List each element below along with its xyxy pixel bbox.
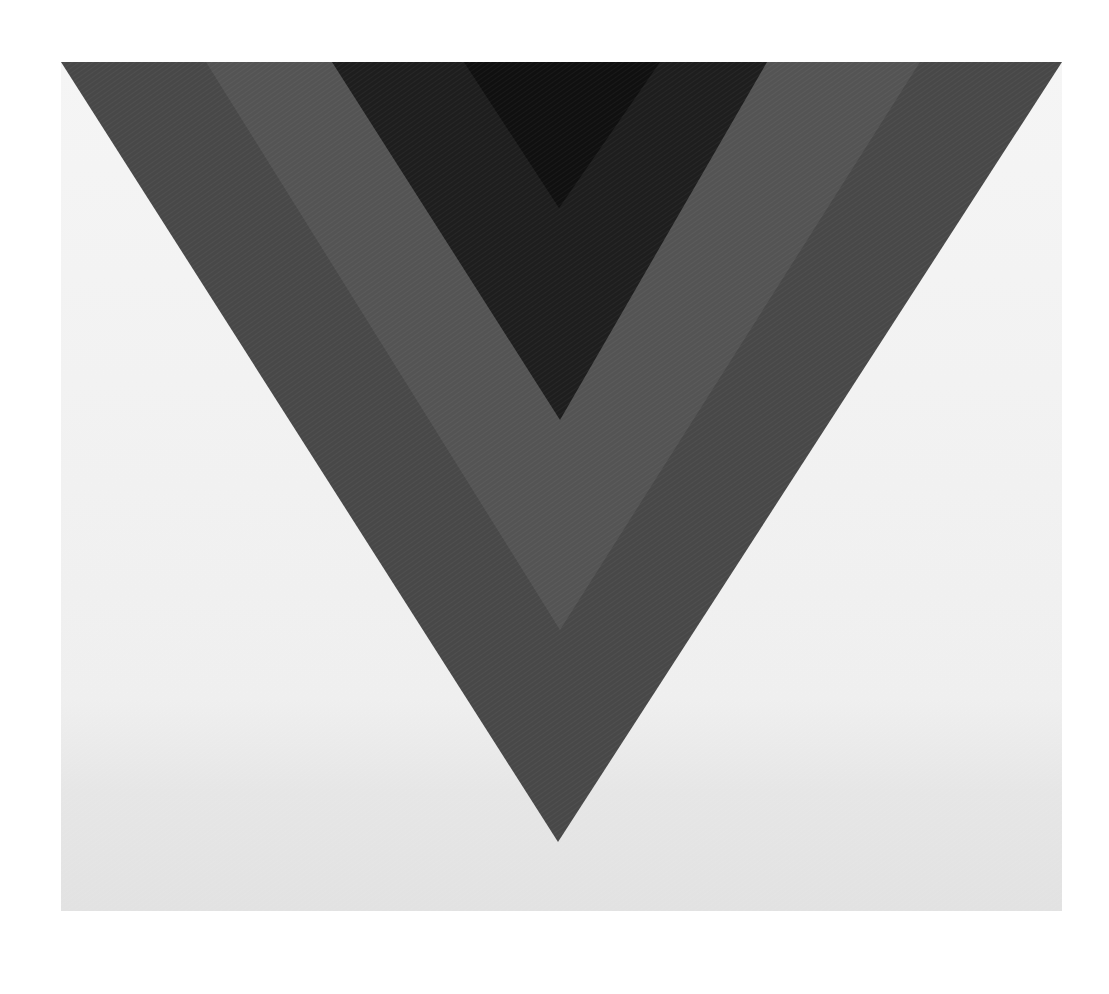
artwork-canvas [0,0,1109,994]
canvas-texture [61,62,1062,911]
